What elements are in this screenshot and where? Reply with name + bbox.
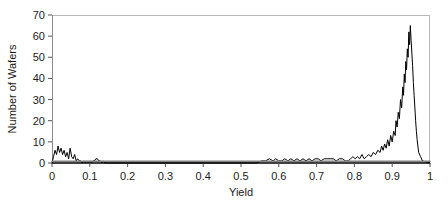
x-tick-label: 0.2 <box>120 170 135 182</box>
y-tick-label: 50 <box>33 51 45 63</box>
x-tick-label: 0.7 <box>309 170 324 182</box>
y-tick-label: 40 <box>33 72 45 84</box>
y-tick-label: 10 <box>33 136 45 148</box>
x-tick-label: 0.6 <box>271 170 286 182</box>
x-tick-label: 0.1 <box>82 170 97 182</box>
y-axis-title: Number of Wafers <box>6 44 18 133</box>
x-tick-label: 0 <box>49 170 55 182</box>
y-tick-label: 60 <box>33 30 45 42</box>
x-tick-label: 0.4 <box>196 170 211 182</box>
plot-area-background <box>52 15 430 163</box>
x-axis-tick-labels: 00.10.20.30.40.50.60.70.80.91 <box>49 170 433 182</box>
x-tick-label: 0.3 <box>158 170 173 182</box>
x-tick-label: 0.9 <box>385 170 400 182</box>
y-axis-tick-labels: 010203040506070 <box>33 9 45 169</box>
y-tick-label: 30 <box>33 94 45 106</box>
chart-figure: 010203040506070 00.10.20.30.40.50.60.70.… <box>0 0 448 204</box>
x-tick-label: 1 <box>427 170 433 182</box>
y-tick-label: 0 <box>39 157 45 169</box>
y-tick-label: 70 <box>33 9 45 21</box>
y-tick-label: 20 <box>33 115 45 127</box>
y-axis-ticks <box>48 15 52 163</box>
x-axis-title: Yield <box>229 186 253 198</box>
chart-canvas: 010203040506070 00.10.20.30.40.50.60.70.… <box>0 0 448 204</box>
x-tick-label: 0.5 <box>233 170 248 182</box>
x-tick-label: 0.8 <box>347 170 362 182</box>
